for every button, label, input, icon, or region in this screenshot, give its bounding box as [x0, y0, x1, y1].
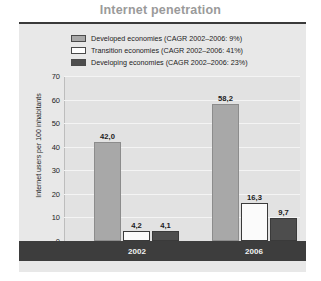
bar-transition-2002[interactable]: 4,2	[123, 231, 150, 241]
gridline-70: 70	[64, 76, 300, 77]
legend-item-developing: Developing economies (CAGR 2002–2006: 23…	[71, 57, 248, 68]
chart-root: Internet penetration Developed economies…	[0, 0, 321, 281]
x-axis-band: 2002 2006	[19, 241, 306, 261]
panel-footer	[19, 261, 306, 272]
legend-label-developed: Developed economies (CAGR 2002–2006: 9%)	[91, 34, 242, 43]
bar-value-developed-2002: 42,0	[100, 132, 115, 141]
legend-label-developing: Developing economies (CAGR 2002–2006: 23…	[91, 58, 248, 67]
legend-item-transition: Transition economies (CAGR 2002–2006: 41…	[71, 45, 248, 56]
y-tick-70: 70	[52, 72, 60, 81]
bar-value-transition-2006: 16,3	[247, 193, 262, 202]
bar-value-developing-2002: 4,1	[160, 221, 171, 230]
bar-value-developed-2006: 58,2	[218, 94, 233, 103]
chart-panel: Developed economies (CAGR 2002–2006: 9%)…	[19, 22, 306, 270]
bar-value-transition-2002: 4,2	[131, 221, 142, 230]
legend: Developed economies (CAGR 2002–2006: 9%)…	[71, 33, 248, 69]
legend-item-developed: Developed economies (CAGR 2002–2006: 9%)	[71, 33, 248, 44]
bar-developed-2006[interactable]: 58,2	[212, 104, 239, 241]
legend-swatch-developing-icon	[71, 59, 86, 66]
legend-swatch-developed-icon	[71, 35, 86, 42]
y-tick-40: 40	[52, 142, 60, 151]
x-tick-2002: 2002	[128, 247, 146, 256]
y-tick-50: 50	[52, 119, 60, 128]
y-tick-20: 20	[52, 189, 60, 198]
bar-transition-2006[interactable]: 16,3	[241, 203, 268, 241]
gridline-60: 60	[64, 100, 300, 101]
legend-label-transition: Transition economies (CAGR 2002–2006: 41…	[91, 46, 243, 55]
y-axis-title: Internet users per 100 inhabitants	[35, 81, 42, 211]
page-title: Internet penetration	[0, 3, 321, 17]
x-tick-2006: 2006	[245, 247, 263, 256]
gridline-50: 50	[64, 123, 300, 124]
y-tick-30: 30	[52, 166, 60, 175]
legend-swatch-transition-icon	[71, 47, 86, 54]
plot-area: 0 10 20 30 40 50 60 70	[64, 76, 300, 241]
y-tick-10: 10	[52, 213, 60, 222]
y-axis-line	[64, 76, 65, 241]
bar-value-developing-2006: 9,7	[278, 208, 289, 217]
bar-developing-2006[interactable]: 9,7	[270, 218, 297, 241]
bar-developing-2002[interactable]: 4,1	[152, 231, 179, 241]
bar-developed-2002[interactable]: 42,0	[94, 142, 121, 241]
y-tick-60: 60	[52, 95, 60, 104]
